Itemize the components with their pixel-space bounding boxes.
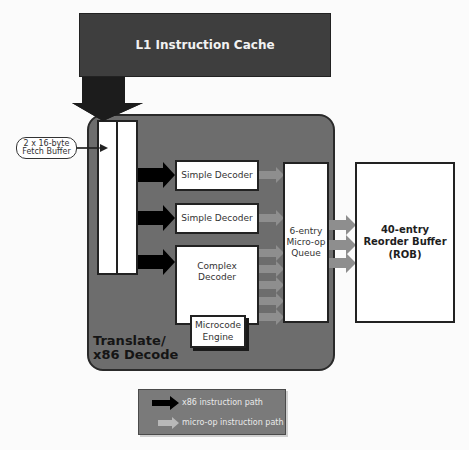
- microcode-line1: Microcode: [195, 320, 241, 331]
- microcode-engine: Microcode Engine: [190, 315, 246, 348]
- simple-decoder-1: Simple Decoder: [175, 160, 259, 191]
- fetch-buffer-divider: [116, 120, 118, 275]
- x86-arrow-icon: [138, 162, 175, 188]
- complex-decoder-line2: Decoder: [197, 272, 236, 283]
- legend-x86-label: x86 instruction path: [182, 398, 263, 407]
- simple-decoder-label: Simple Decoder: [181, 213, 252, 224]
- micro-op-queue: 6-entry Micro-op Queue: [283, 162, 329, 323]
- rob-line1: 40-entry: [363, 224, 446, 237]
- fetch-buffer-callout: 2 x 16-byte Fetch Buffer: [16, 137, 77, 159]
- legend-uop-label: micro-op instruction path: [182, 418, 284, 427]
- queue-line3: Queue: [286, 248, 325, 259]
- simple-decoder-2: Simple Decoder: [175, 203, 259, 234]
- decode-label-line2: x86 Decode: [93, 348, 178, 362]
- complex-decoder: Complex Decoder: [175, 245, 259, 325]
- x86-arrow-icon: [138, 205, 175, 231]
- microcode-line2: Engine: [195, 332, 241, 343]
- uop-arrows-to-rob: [328, 215, 356, 273]
- rob-line2: Reorder Buffer: [363, 236, 446, 249]
- complex-decoder-line1: Complex: [197, 261, 236, 272]
- queue-line2: Micro-op: [286, 237, 325, 248]
- reorder-buffer: 40-entry Reorder Buffer (ROB): [355, 162, 455, 323]
- decode-label-line1: Translate/: [93, 334, 178, 348]
- callout-line2: Fetch Buffer: [22, 148, 71, 156]
- x86-arrow-icon: [138, 249, 175, 275]
- uop-arrows: [258, 167, 284, 325]
- queue-line1: 6-entry: [286, 226, 325, 237]
- rob-line3: (ROB): [363, 249, 446, 262]
- simple-decoder-label: Simple Decoder: [181, 170, 252, 181]
- decode-block-label: Translate/ x86 Decode: [93, 334, 178, 361]
- fetch-arrow-icon: [72, 77, 143, 121]
- legend: [138, 389, 286, 435]
